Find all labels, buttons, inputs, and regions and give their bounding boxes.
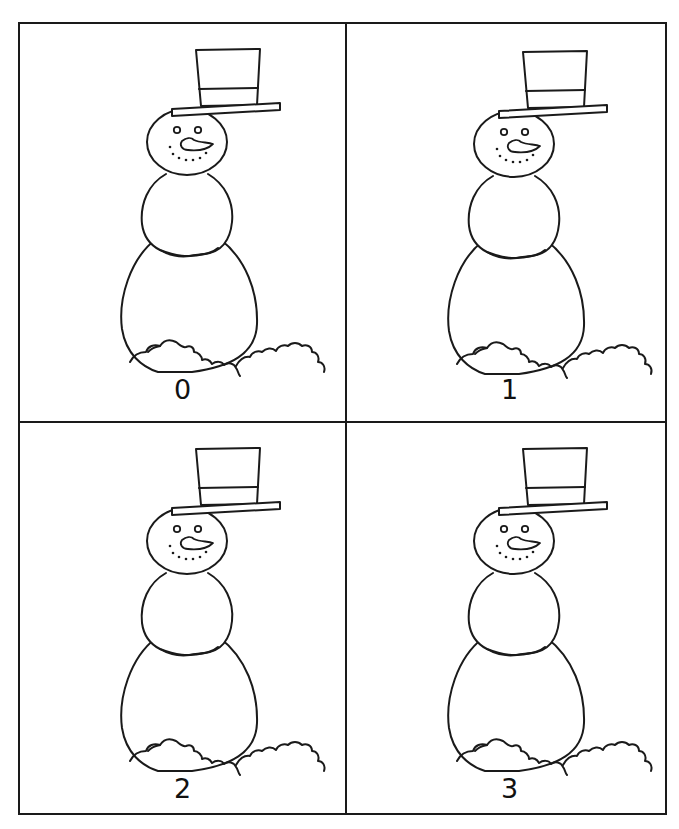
card-number: 3	[347, 773, 672, 804]
snowman-icon	[347, 423, 672, 820]
snowman-icon	[347, 24, 672, 421]
card-2: 2	[20, 423, 345, 820]
card-3: 3	[347, 423, 672, 820]
card-number: 1	[347, 374, 672, 405]
card-number: 0	[20, 374, 345, 405]
snowman-icon	[20, 423, 345, 820]
card-1: 1	[347, 24, 672, 421]
worksheet-frame: 0 1 2 3	[18, 22, 667, 815]
card-number: 2	[20, 773, 345, 804]
card-0: 0	[20, 24, 345, 421]
snowman-icon	[20, 24, 345, 421]
